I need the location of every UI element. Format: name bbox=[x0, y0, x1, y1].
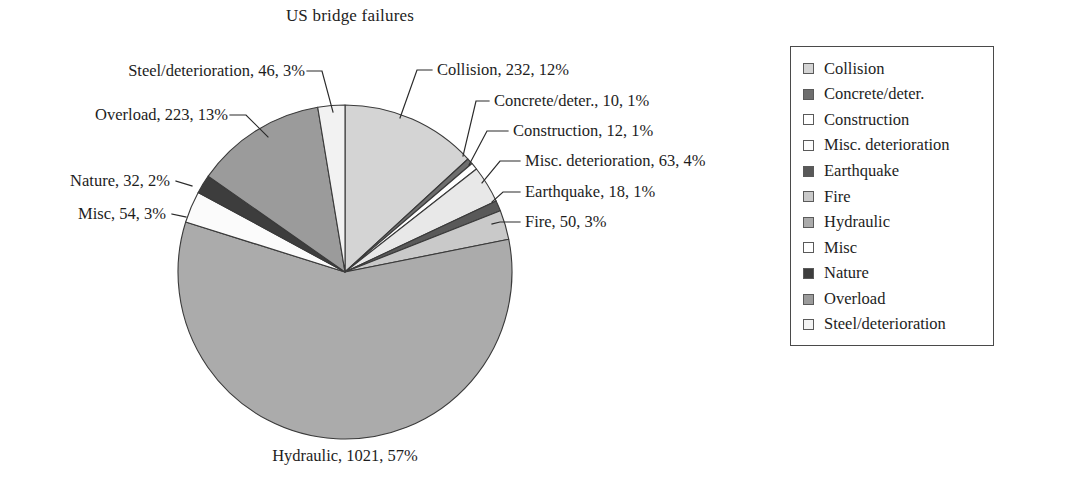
legend-swatch-icon bbox=[803, 114, 814, 125]
data-label-misc: Misc, 54, 3% bbox=[0, 206, 166, 223]
data-label-overload: Overload, 223, 13% bbox=[0, 107, 228, 124]
legend-item[interactable]: Misc bbox=[803, 235, 989, 261]
legend-swatch-icon bbox=[803, 268, 814, 279]
leader-line-misc-deterioration bbox=[482, 161, 520, 183]
legend-item[interactable]: Concrete/deter. bbox=[803, 82, 989, 108]
legend-item-label: Collision bbox=[824, 61, 885, 78]
legend-item-label: Steel/deterioration bbox=[824, 316, 946, 333]
pie-slice-group bbox=[178, 105, 512, 439]
legend-item-label: Overload bbox=[824, 291, 885, 308]
leader-line-collision bbox=[400, 70, 432, 118]
data-label-hydraulic: Hydraulic, 1021, 57% bbox=[195, 448, 495, 465]
legend-swatch-icon bbox=[803, 319, 814, 330]
legend-item-label: Nature bbox=[824, 265, 869, 282]
legend-item[interactable]: Hydraulic bbox=[803, 210, 989, 236]
leader-line-concrete-deterioration bbox=[463, 101, 489, 156]
leader-line-nature bbox=[176, 181, 192, 186]
legend-item[interactable]: Steel/deterioration bbox=[803, 312, 989, 338]
data-label-construction: Construction, 12, 1% bbox=[513, 123, 653, 140]
legend-item[interactable]: Collision bbox=[803, 56, 989, 82]
legend-item[interactable]: Nature bbox=[803, 261, 989, 287]
legend-item[interactable]: Earthquake bbox=[803, 158, 989, 184]
data-label-earthquake: Earthquake, 18, 1% bbox=[525, 184, 655, 201]
data-label-nature: Nature, 32, 2% bbox=[0, 173, 170, 190]
data-label-collision: Collision, 232, 12% bbox=[437, 62, 569, 79]
legend-item[interactable]: Misc. deterioration bbox=[803, 133, 989, 159]
data-label-concrete-deterioration: Concrete/deter., 10, 1% bbox=[494, 93, 649, 110]
legend-swatch-icon bbox=[803, 217, 814, 228]
leader-line-misc bbox=[172, 214, 186, 217]
data-label-misc-deterioration: Misc. deterioration, 63, 4% bbox=[525, 153, 706, 170]
legend-swatch-icon bbox=[803, 294, 814, 305]
legend-swatch-icon bbox=[803, 191, 814, 202]
legend-swatch-icon bbox=[803, 89, 814, 100]
legend-item-label: Construction bbox=[824, 112, 909, 129]
leader-line-construction bbox=[469, 131, 508, 165]
legend-item-label: Concrete/deter. bbox=[824, 86, 924, 103]
legend-item[interactable]: Fire bbox=[803, 184, 989, 210]
legend-swatch-icon bbox=[803, 166, 814, 177]
legend: CollisionConcrete/deter.ConstructionMisc… bbox=[790, 46, 994, 346]
legend-item-label: Misc bbox=[824, 240, 857, 257]
legend-list: CollisionConcrete/deter.ConstructionMisc… bbox=[803, 56, 989, 338]
legend-swatch-icon bbox=[803, 242, 814, 253]
chart-canvas: US bridge failures Steel/deterio bbox=[0, 0, 1067, 484]
legend-item-label: Hydraulic bbox=[824, 214, 890, 231]
legend-item-label: Fire bbox=[824, 189, 851, 206]
legend-item[interactable]: Construction bbox=[803, 107, 989, 133]
data-label-fire: Fire, 50, 3% bbox=[525, 214, 607, 231]
legend-item[interactable]: Overload bbox=[803, 286, 989, 312]
data-label-steel-deterioration: Steel/deterioration, 46, 3% bbox=[0, 63, 305, 80]
legend-swatch-icon bbox=[803, 63, 814, 74]
legend-item-label: Misc. deterioration bbox=[824, 137, 950, 154]
legend-swatch-icon bbox=[803, 140, 814, 151]
legend-item-label: Earthquake bbox=[824, 163, 899, 180]
